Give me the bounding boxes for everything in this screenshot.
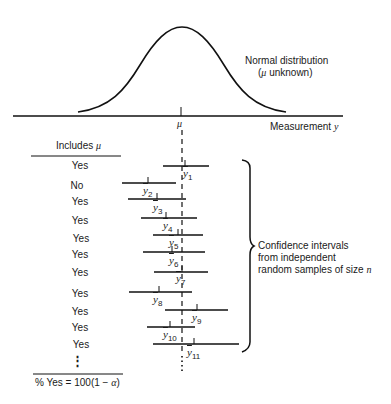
- percent-yes-formula: % Yes = 100(1 − α): [35, 377, 120, 389]
- header-mu: μ: [96, 140, 101, 151]
- unknown-text: unknown): [266, 67, 312, 78]
- confidence-intervals: [122, 160, 239, 344]
- ybar-label-5: y5: [169, 236, 178, 251]
- distribution-label-line2: (μ unknown): [258, 67, 313, 79]
- includes-ellipsis: ⋮: [47, 353, 107, 368]
- ybar-label-4: y4: [163, 219, 172, 234]
- right-brace: [242, 160, 254, 352]
- ybar-label-10: y10: [163, 328, 177, 343]
- measurement-text: Measurement: [270, 121, 334, 132]
- includes-mu-header: Includes μ: [56, 140, 101, 152]
- includes-value-3: Yes: [50, 196, 110, 207]
- includes-value-7: Yes: [50, 267, 110, 278]
- includes-value-8: Yes: [50, 288, 110, 299]
- ybar-label-7: y7: [176, 272, 185, 287]
- ybar-label-2: y2: [143, 184, 152, 199]
- includes-value-2: No: [47, 180, 107, 191]
- brace-label-line1: Confidence intervals: [258, 240, 349, 252]
- sample-size-var: n: [366, 264, 371, 275]
- includes-value-6: Yes: [50, 249, 110, 260]
- ybar-label-3: y3: [153, 201, 162, 216]
- ybar-label-1: y1: [183, 167, 192, 182]
- formula-close: ): [116, 377, 119, 388]
- ybar-label-6: y6: [169, 254, 178, 269]
- measurement-axis-label: Measurement y: [270, 121, 338, 133]
- includes-value-5: Yes: [51, 233, 111, 244]
- includes-value-9: Yes: [50, 306, 110, 317]
- includes-value-1: Yes: [50, 160, 110, 171]
- distribution-label-line1: Normal distribution: [245, 55, 328, 67]
- normal-curve: [78, 27, 286, 112]
- brace-label-line2: from independent: [258, 252, 336, 264]
- brace-label-text: random samples of size: [258, 264, 366, 275]
- header-text: Includes: [56, 140, 96, 151]
- formula-text: % Yes = 100(1 −: [35, 377, 111, 388]
- includes-value-10: Yes: [50, 322, 110, 333]
- brace-label-line3: random samples of size n: [258, 264, 371, 276]
- includes-value-4: Yes: [50, 215, 110, 226]
- mu-axis-label: μ: [177, 118, 182, 130]
- measurement-var: y: [334, 121, 338, 132]
- includes-value-11: Yes: [51, 339, 111, 350]
- ybar-label-11: y11: [187, 346, 200, 361]
- ybar-label-9: y9: [192, 311, 201, 326]
- ybar-label-8: y8: [153, 293, 162, 308]
